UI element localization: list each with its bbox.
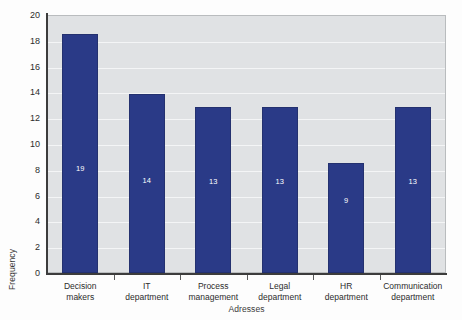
- x-category-label-line: department: [313, 292, 380, 303]
- y-axis-tick-labels: 02468101214161820: [18, 14, 43, 276]
- x-category-label: ITdepartment: [114, 281, 181, 302]
- y-tick-label: 18: [30, 36, 40, 45]
- y-tick-label: 0: [35, 269, 40, 278]
- bar-value-label: 14: [130, 177, 164, 185]
- x-category-label-line: makers: [47, 292, 114, 303]
- bar[interactable]: 9: [328, 163, 364, 273]
- y-tick-label: 16: [30, 62, 40, 71]
- y-tick-label: 2: [35, 243, 40, 252]
- bar-chart: Frequency 02468101214161820 19141313913 …: [0, 0, 462, 320]
- x-tick-mark: [114, 275, 115, 280]
- bar-value-label: 13: [196, 178, 230, 186]
- y-tick-label: 10: [30, 140, 40, 149]
- bar[interactable]: 13: [395, 107, 431, 273]
- y-tick-label: 4: [35, 217, 40, 226]
- bar-value-label: 19: [63, 165, 97, 173]
- y-tick-label: 8: [35, 165, 40, 174]
- y-tick-label: 14: [30, 88, 40, 97]
- y-tick-label: 6: [35, 191, 40, 200]
- x-category-label-line: IT: [114, 281, 181, 292]
- bar[interactable]: 13: [195, 107, 231, 273]
- x-category-label-line: Legal: [247, 281, 314, 292]
- y-tick-label: 20: [30, 11, 40, 20]
- bar[interactable]: 13: [262, 107, 298, 273]
- x-category-label: Communicationdepartment: [380, 281, 447, 302]
- x-category-label: Processmanagement: [180, 281, 247, 302]
- x-category-label-line: department: [380, 292, 447, 303]
- bar[interactable]: 19: [62, 34, 98, 273]
- x-tick-mark: [247, 275, 248, 280]
- bar-value-label: 13: [263, 178, 297, 186]
- x-category-label-line: department: [114, 292, 181, 303]
- x-category-label-line: Process: [180, 281, 247, 292]
- x-category-label: Legaldepartment: [247, 281, 314, 302]
- x-category-label: Decisionmakers: [47, 281, 114, 302]
- bar[interactable]: 14: [129, 94, 165, 273]
- bar-value-label: 13: [396, 178, 430, 186]
- x-category-label-line: Decision: [47, 281, 114, 292]
- x-tick-mark: [380, 275, 381, 280]
- x-category-label-line: HR: [313, 281, 380, 292]
- x-category-label-line: department: [247, 292, 314, 303]
- x-category-label: HRdepartment: [313, 281, 380, 302]
- x-tick-mark: [180, 275, 181, 280]
- x-tick-mark: [313, 275, 314, 280]
- x-category-label-line: Communication: [380, 281, 447, 292]
- bars-layer: 19141313913: [47, 15, 446, 273]
- bar-value-label: 9: [329, 197, 363, 205]
- y-tick-label: 12: [30, 114, 40, 123]
- x-category-label-line: management: [180, 292, 247, 303]
- x-axis-title: Adresses: [47, 304, 446, 314]
